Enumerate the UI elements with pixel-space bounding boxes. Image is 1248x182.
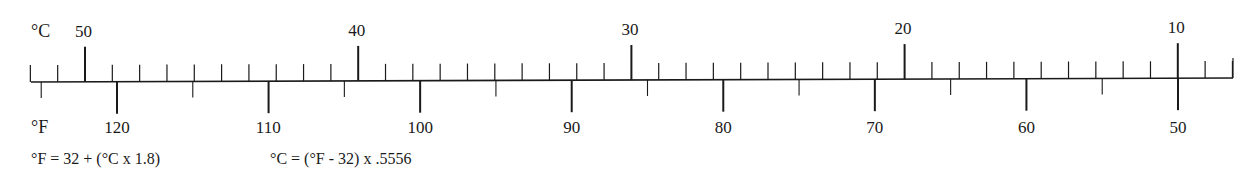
fahrenheit-unit-label: °F — [31, 118, 48, 136]
fahrenheit-label: 120 — [104, 119, 130, 136]
celsius-label: 40 — [348, 22, 365, 39]
celsius-label: 20 — [895, 20, 912, 37]
fahrenheit-label: 100 — [407, 119, 433, 136]
celsius-label: 10 — [1168, 19, 1185, 36]
celsius-label: 30 — [621, 21, 638, 38]
celsius-unit-label: °C — [31, 22, 50, 40]
fahrenheit-label: 80 — [715, 119, 732, 136]
fahrenheit-label: 60 — [1018, 119, 1035, 136]
formula-c-to-f: °F = 32 + (°C x 1.8) — [31, 151, 160, 167]
formula-f-to-c: °C = (°F - 32) x .5556 — [270, 151, 411, 167]
fahrenheit-label: 50 — [1169, 119, 1186, 136]
fahrenheit-label: 110 — [256, 119, 281, 136]
fahrenheit-label: 70 — [866, 119, 883, 136]
celsius-label: 50 — [75, 23, 92, 40]
fahrenheit-label: 90 — [563, 119, 580, 136]
